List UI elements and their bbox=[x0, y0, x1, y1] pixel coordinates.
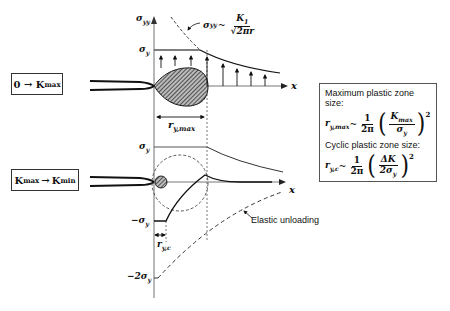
formula-box: Maximum plastic zone size: ry,max ~ 12π … bbox=[319, 83, 437, 182]
stage-from-sub: max bbox=[23, 176, 39, 185]
zone-label-max: ry,max bbox=[168, 120, 195, 132]
cyclic-zone-title: Cyclic plastic zone size: bbox=[325, 140, 431, 150]
stage-loading-box: 0 → Kmax bbox=[11, 73, 63, 95]
equation-leader bbox=[188, 23, 200, 30]
crack-bottom bbox=[90, 177, 154, 186]
yield-label-top: σy bbox=[139, 45, 149, 56]
x-axis-label-top: x bbox=[291, 81, 297, 91]
plastic-zone-max bbox=[154, 68, 208, 106]
y-axis-label: σyy bbox=[136, 14, 150, 25]
cyclic-plastic-zone bbox=[155, 176, 167, 188]
stress-curve-top bbox=[200, 50, 280, 73]
stage-to: K bbox=[52, 175, 61, 186]
stage-loading-sub: max bbox=[44, 80, 60, 89]
yield-label-bottom: σy bbox=[139, 142, 149, 153]
max-zone-equation: ry,max ~ 12π ( Kmaxσy ) 2 bbox=[325, 108, 431, 140]
max-zone-title: Maximum plastic zone size: bbox=[325, 88, 431, 108]
vertical-axis bbox=[151, 16, 157, 298]
stage-arrow: → bbox=[41, 175, 49, 186]
neg-yield-label: −σy bbox=[131, 216, 149, 227]
stage-from: K bbox=[14, 175, 23, 186]
stage-loading-label: 0 → K bbox=[13, 79, 44, 90]
zone-label-cyclic: ry,c bbox=[157, 240, 171, 251]
elastic-unloading-curve bbox=[158, 192, 282, 278]
elastic-singular-curve bbox=[171, 17, 200, 50]
elastic-equation: σyy ~ K1√2πr bbox=[203, 14, 258, 37]
elastic-unloading-annotation: Elastic unloading bbox=[251, 216, 319, 225]
crack-top bbox=[90, 81, 154, 90]
stage-unloading-box: Kmax → Kmin bbox=[11, 169, 79, 191]
neg2-yield-label: −2σy bbox=[127, 272, 151, 283]
stage-to-sub: min bbox=[60, 176, 75, 185]
cyclic-zone-equation: ry,c ~ 12π ( ΔK2σy ) 2 bbox=[325, 150, 431, 182]
x-axis-label-bottom: x bbox=[289, 185, 295, 195]
